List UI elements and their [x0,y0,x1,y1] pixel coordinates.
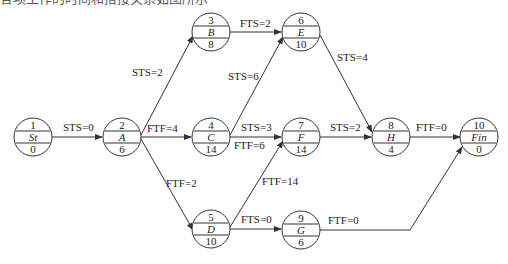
node-name: B [208,26,215,38]
node-8-h: 8 H 4 [372,118,410,156]
node-id: 3 [208,14,214,26]
node-id: 7 [298,119,304,131]
node-id: 8 [388,119,394,131]
node-id: 2 [119,119,125,131]
node-name: G [297,224,305,236]
edge-label-6-8: STS=4 [337,51,368,63]
node-1-st: 1 St 0 [14,118,52,156]
edge-label-4-7-ftf: FTF=6 [234,139,265,151]
edge-label-4-7-sts: STS=3 [241,121,272,133]
edge-label-5-7: FTF=14 [262,175,299,187]
edge-label-2-3: STS=2 [132,66,163,78]
edge-label-7-8: STS=2 [330,121,361,133]
node-duration: 8 [208,38,214,50]
node-name: Fin [470,131,487,143]
node-duration: 6 [119,143,125,155]
node-id: 10 [474,119,486,131]
node-3-b: 3 B 8 [192,13,230,51]
node-duration: 0 [30,143,36,155]
edge-label-9-10: FTF=0 [328,214,359,226]
node-duration: 14 [206,143,218,155]
node-2-a: 2 A 6 [103,118,141,156]
node-9-g: 9 G 6 [282,211,320,249]
edge-6-8 [320,35,372,132]
node-name: F [297,131,305,143]
node-duration: 6 [298,236,304,248]
edge-label-2-4: FTF=4 [147,122,178,134]
precedence-network-diagram: STS=0 STS=2 FTF=4 FTF=2 FTS=2 STS=6 STS=… [0,0,508,264]
node-6-e: 6 E 10 [282,13,320,51]
node-duration: 10 [296,38,308,50]
edge-label-2-5: FTF=2 [166,177,197,189]
node-name: H [386,131,396,143]
node-duration: 0 [476,143,482,155]
edge-label-4-6: STS=6 [228,70,259,82]
edge-label-8-10: FTF=0 [416,121,447,133]
node-name: St [29,131,39,143]
node-duration: 4 [388,143,394,155]
node-duration: 10 [206,235,218,247]
edge-label-1-2: STS=0 [63,121,94,133]
node-7-f: 7 F 14 [282,118,320,156]
edge-label-3-6: FTS=2 [240,17,271,29]
node-id: 1 [30,119,36,131]
node-id: 4 [208,119,214,131]
node-id: 6 [298,14,304,26]
node-id: 9 [298,212,304,224]
edge-2-3 [141,36,193,135]
node-name: A [118,131,126,143]
node-name: E [297,26,305,38]
node-duration: 14 [296,143,308,155]
node-name: D [206,223,215,235]
node-4-c: 4 C 14 [192,118,230,156]
node-id: 5 [208,211,214,223]
node-10-fin: 10 Fin 0 [460,118,498,156]
node-5-d: 5 D 10 [192,210,230,248]
edge-label-5-9: FTS=0 [241,213,272,225]
node-name: C [207,131,215,143]
